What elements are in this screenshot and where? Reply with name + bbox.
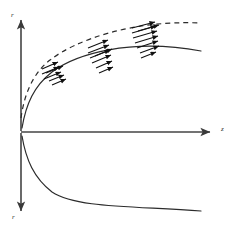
figure-container: z r r [0,0,239,230]
dashed-parabola-curve [21,23,200,118]
solid-parabola-lower-curve [22,136,201,211]
z-axis-label: z [220,125,224,133]
vector-field-group [42,22,159,85]
vector-arrow [140,46,159,53]
physics-diagram: z r r [0,0,239,230]
vector-arrow [96,61,112,68]
vector-arrow [52,79,66,85]
vector-arrow [99,67,113,73]
curves-group [21,23,201,211]
vector-arrow [141,52,156,58]
arrow-cluster-middle [88,40,113,73]
r-axis-label-top: r [11,11,14,19]
axes-group: z r r [11,11,224,221]
r-axis-label-bottom: r [12,213,15,221]
solid-parabola-upper-curve [22,46,201,128]
arrow-cluster-right [132,22,159,58]
